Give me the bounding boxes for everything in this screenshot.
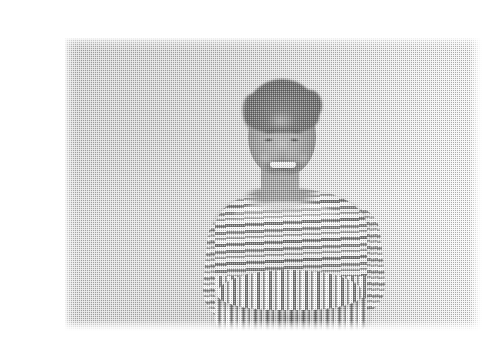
nose (276, 142, 288, 160)
subject-figure (65, 38, 483, 332)
forehead-highlight (261, 110, 301, 132)
teeth (270, 162, 296, 168)
body-edge-shading (211, 190, 371, 332)
chin (265, 170, 299, 184)
photograph: Smiling woman with hair pulled back, arm… (65, 38, 483, 332)
